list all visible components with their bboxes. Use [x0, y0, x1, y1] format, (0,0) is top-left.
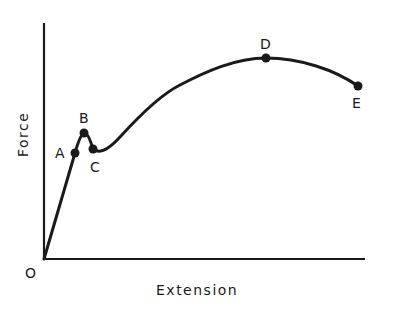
- label-c: C: [90, 159, 101, 175]
- label-a: A: [55, 145, 66, 161]
- label-b: B: [79, 110, 90, 126]
- point-d: [262, 54, 271, 63]
- label-d: D: [260, 36, 272, 52]
- point-b: [80, 129, 89, 138]
- force-extension-chart: A B C D E O Extension Force: [0, 0, 393, 313]
- y-axis-title: Force: [15, 112, 31, 157]
- x-axis-title: Extension: [156, 282, 238, 298]
- origin-label: O: [25, 265, 37, 281]
- point-e: [354, 82, 363, 91]
- point-a: [71, 149, 80, 158]
- point-c: [89, 145, 98, 154]
- label-e: E: [352, 95, 362, 111]
